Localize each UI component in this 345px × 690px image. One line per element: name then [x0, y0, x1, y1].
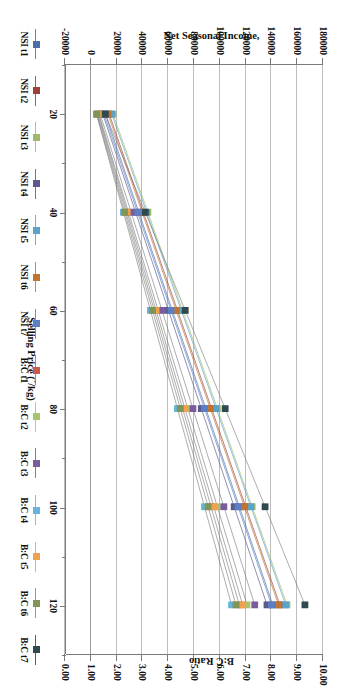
data-point: [134, 209, 141, 216]
data-point: [190, 405, 197, 412]
data-point: [102, 111, 109, 118]
legend-swatch: [33, 646, 40, 653]
legend-label: B:C t7: [19, 637, 29, 662]
series-line: [103, 114, 267, 605]
data-point: [268, 601, 275, 608]
legend-swatch: [33, 507, 40, 514]
rotated-chart-stage: -200000200004000060000800001000001200001…: [0, 0, 345, 690]
legend-marker-icon: [30, 542, 43, 572]
secondary-axis-title: B:C Ratio: [97, 656, 327, 667]
data-point: [159, 307, 166, 314]
series-line: [98, 114, 240, 605]
legend-label: NSI t4: [19, 171, 29, 196]
x-tick-label: 60: [48, 306, 58, 316]
legend-item[interactable]: NSI t5: [19, 208, 43, 252]
legend-label: B:C t6: [19, 591, 29, 616]
chart-legend: NSI t1NSI t2NSI t3NSI t4NSI t5NSI t6NSI …: [3, 22, 43, 672]
legend-label: B:C t2: [19, 404, 29, 429]
series-plot: [65, 65, 323, 654]
y2-tick-label: 10.00: [318, 664, 328, 685]
data-point: [201, 405, 208, 412]
data-point: [233, 601, 240, 608]
x-tick-minor: [62, 655, 66, 656]
data-point: [275, 601, 282, 608]
series-line: [100, 114, 255, 605]
legend-marker-icon: [30, 635, 43, 665]
data-point: [121, 209, 128, 216]
legend-marker-icon: [30, 29, 43, 59]
y-tick: [322, 58, 323, 65]
legend-item[interactable]: B:C t7: [19, 628, 43, 672]
legend-marker-icon: [30, 355, 43, 385]
legend-item[interactable]: B:C t6: [19, 581, 43, 625]
series-line: [105, 114, 305, 605]
y-tick-label: 0: [86, 50, 96, 55]
legend-item[interactable]: B:C t3: [19, 441, 43, 485]
legend-swatch: [33, 367, 40, 374]
legend-marker-icon: [30, 122, 43, 152]
legend-item[interactable]: B:C t5: [19, 535, 43, 579]
y-tick: [167, 58, 168, 65]
legend-marker-icon: [30, 262, 43, 292]
data-point: [142, 209, 149, 216]
y-tick: [141, 58, 142, 65]
legend-marker-icon: [30, 448, 43, 478]
legend-marker-icon: [30, 309, 43, 339]
legend-marker-icon: [30, 169, 43, 199]
legend-item[interactable]: B:C t1: [19, 348, 43, 392]
y2-tick-label: 1.00: [86, 664, 96, 681]
y-tick: [219, 58, 220, 65]
legend-swatch: [33, 413, 40, 420]
legend-item[interactable]: B:C t2: [19, 395, 43, 439]
data-point: [262, 503, 269, 510]
legend-item[interactable]: NSI t3: [19, 115, 43, 159]
data-point: [222, 405, 229, 412]
legend-swatch: [33, 274, 40, 281]
data-point: [207, 405, 214, 412]
y-tick: [296, 58, 297, 65]
legend-item[interactable]: NSI t6: [19, 255, 43, 299]
legend-swatch: [33, 553, 40, 560]
legend-swatch: [33, 227, 40, 234]
legend-label: NSI t6: [19, 265, 29, 290]
legend-label: NSI t5: [19, 218, 29, 243]
y2-tick-label: 0.00: [60, 664, 70, 681]
data-point: [220, 503, 227, 510]
data-point: [235, 503, 242, 510]
legend-swatch: [33, 87, 40, 94]
legend-marker-icon: [30, 76, 43, 106]
data-point: [302, 601, 309, 608]
legend-swatch: [33, 460, 40, 467]
y-tick: [193, 58, 194, 65]
y-tick: [64, 58, 65, 65]
legend-swatch: [33, 320, 40, 327]
legend-label: B:C t4: [19, 497, 29, 522]
y-tick: [270, 58, 271, 65]
x-tick-label: 80: [48, 404, 58, 414]
y2-tick: [90, 654, 91, 661]
data-point: [93, 111, 100, 118]
y-tick: [90, 58, 91, 65]
legend-marker-icon: [30, 495, 43, 525]
legend-swatch: [33, 134, 40, 141]
data-point: [241, 503, 248, 510]
legend-item[interactable]: NSI t7: [19, 302, 43, 346]
data-point: [213, 405, 220, 412]
y-tick-label: -20000: [60, 28, 70, 55]
legend-label: NSI t7: [19, 311, 29, 336]
legend-marker-icon: [30, 588, 43, 618]
x-tick-label: 40: [48, 208, 58, 218]
legend-item[interactable]: NSI t4: [19, 162, 43, 206]
x-tick-label: 100: [48, 500, 58, 514]
legend-marker-icon: [30, 215, 43, 245]
legend-item[interactable]: B:C t4: [19, 488, 43, 532]
data-point: [248, 503, 255, 510]
data-point: [239, 601, 246, 608]
y-axis-title: Net Seasonal Income,: [97, 30, 327, 41]
y-tick: [116, 58, 117, 65]
series-line: [105, 114, 272, 605]
series-line: [108, 114, 279, 605]
legend-item[interactable]: NSI t1: [19, 22, 43, 66]
legend-item[interactable]: NSI t2: [19, 69, 43, 113]
legend-label: B:C t1: [19, 358, 29, 383]
